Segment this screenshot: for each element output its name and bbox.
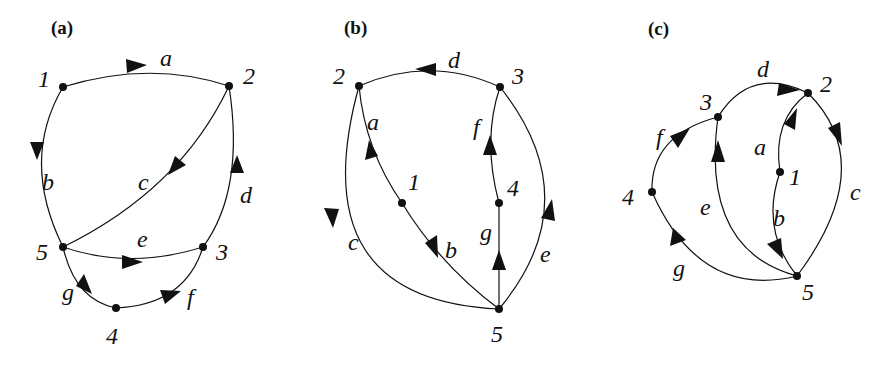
panel-b: (b) 1 2 3 4 5 a b c d e f g [324, 17, 555, 347]
arrow-c-c-icon [828, 122, 842, 146]
edge-c-a [779, 93, 808, 172]
edge-label-c-a: a [754, 134, 766, 160]
edge-a-b [42, 87, 64, 247]
panel-label-c: (c) [648, 18, 669, 40]
edge-label-a-d: d [240, 182, 253, 208]
node-label-c-5: 5 [802, 279, 814, 305]
figure-canvas: (a) 1 2 3 4 5 a b c d e f g [0, 0, 895, 368]
arrow-b-d-icon [415, 63, 436, 76]
node-b-4 [495, 199, 503, 207]
node-c-5 [793, 272, 801, 280]
node-label-b-1: 1 [408, 169, 420, 195]
edge-a-d [203, 86, 233, 247]
node-a-2 [225, 82, 233, 90]
edge-label-c-f: f [656, 124, 666, 150]
edge-c-c [797, 93, 841, 276]
edge-label-b-d: d [448, 47, 461, 73]
node-label-a-1: 1 [38, 66, 50, 92]
node-label-c-1: 1 [789, 164, 801, 190]
edge-a-e [63, 247, 203, 259]
edge-label-a-f: f [187, 284, 197, 310]
node-c-3 [714, 113, 722, 121]
edge-label-c-g: g [673, 255, 685, 281]
arrow-a-a-icon [126, 59, 147, 73]
arrow-a-f-icon [160, 290, 181, 304]
edge-label-b-b: b [445, 237, 457, 263]
edge-label-c-c: c [850, 179, 861, 205]
node-label-a-5: 5 [36, 239, 48, 265]
node-label-b-2: 2 [333, 63, 345, 89]
node-a-3 [199, 243, 207, 251]
arrow-b-c-icon [324, 208, 339, 228]
edge-label-b-g: g [480, 219, 492, 245]
arrow-b-g-icon [492, 250, 506, 270]
arrow-b-f-icon [483, 135, 497, 155]
node-label-b-5: 5 [491, 321, 503, 347]
arrow-c-e-icon [711, 140, 725, 162]
panel-label-a: (a) [51, 17, 73, 39]
node-label-a-4: 4 [106, 323, 118, 349]
node-label-b-4: 4 [507, 175, 519, 201]
node-c-4 [648, 188, 656, 196]
arrow-a-c-icon [168, 156, 186, 175]
node-c-2 [804, 89, 812, 97]
edge-label-c-b: b [773, 205, 785, 231]
node-b-2 [355, 82, 363, 90]
node-c-1 [776, 168, 784, 176]
edge-a-a [63, 73, 229, 87]
node-label-c-3: 3 [699, 89, 712, 115]
edge-a-c [63, 86, 229, 247]
arrow-b-e-icon [541, 199, 555, 221]
edge-label-c-d: d [757, 56, 770, 82]
node-b-1 [398, 199, 406, 207]
arrow-c-b-icon [767, 238, 783, 259]
arrow-c-f-icon [670, 128, 690, 148]
node-label-a-3: 3 [215, 239, 228, 265]
node-label-a-2: 2 [243, 63, 255, 89]
node-b-3 [496, 83, 504, 91]
arrow-c-d-icon [777, 83, 800, 96]
edge-label-a-g: g [62, 279, 74, 305]
edge-label-a-e: e [137, 226, 148, 252]
edge-label-b-a: a [367, 109, 379, 135]
edge-b-e [499, 87, 545, 309]
edge-label-b-e: e [540, 241, 551, 267]
node-a-1 [59, 83, 67, 91]
panel-c: (c) 1 2 3 4 5 a b c d e f g [622, 18, 861, 305]
edge-b-a [359, 86, 402, 203]
node-b-5 [495, 305, 503, 313]
node-label-c-2: 2 [820, 71, 832, 97]
edge-label-c-e: e [700, 194, 711, 220]
arrow-a-e-icon [122, 255, 143, 269]
node-label-b-3: 3 [511, 63, 524, 89]
edge-label-a-b: b [42, 169, 54, 195]
panel-label-b: (b) [344, 17, 367, 39]
edge-label-b-f: f [473, 114, 483, 140]
panel-a: (a) 1 2 3 4 5 a b c d e f g [30, 17, 255, 349]
edge-label-b-c: c [348, 229, 359, 255]
node-a-4 [112, 304, 120, 312]
edge-label-a-c: c [138, 169, 149, 195]
node-label-c-4: 4 [622, 184, 634, 210]
node-a-5 [59, 243, 67, 251]
edge-label-a-a: a [160, 45, 172, 71]
